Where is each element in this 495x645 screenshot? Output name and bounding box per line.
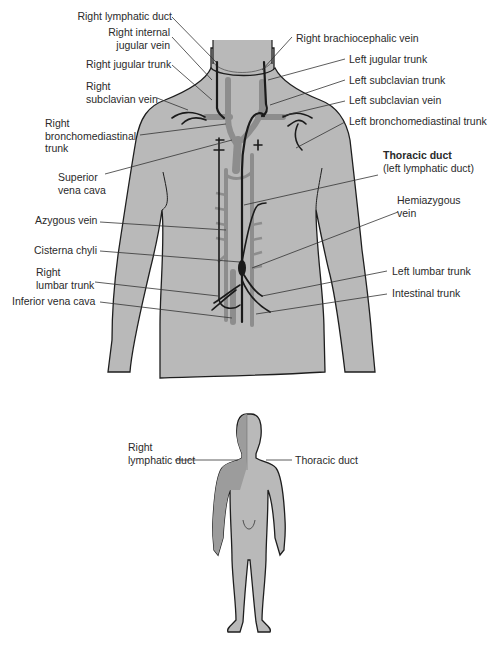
label-line: Right	[128, 441, 195, 454]
label-right-brachiocephalic-vein: Right brachiocephalic vein	[296, 32, 419, 45]
label-left-bronchomediastinal-trunk: Left bronchomediastinal trunk	[349, 115, 487, 128]
label-right-bronchomediastinal-trunk: Right bronchomediastinal trunk	[45, 117, 136, 155]
label-hemiazygous-vein: Hemiazygous vein	[397, 194, 461, 219]
label-superior-vena-cava: Superior vena cava	[58, 171, 106, 196]
label-left-jugular-trunk: Left jugular trunk	[349, 53, 427, 66]
lymphatic-diagram: Right lymphatic duct Right internal jugu…	[0, 0, 495, 645]
label-right-internal-jugular-vein: Right internal jugular vein	[108, 26, 170, 51]
label-right-jugular-trunk: Right jugular trunk	[86, 58, 171, 71]
label-left-lumbar-trunk: Left lumbar trunk	[392, 265, 471, 278]
label-figure-thoracic-duct: Thoracic duct	[295, 454, 358, 467]
label-inferior-vena-cava: Inferior vena cava	[12, 295, 95, 308]
label-line: Right internal	[108, 26, 170, 39]
label-thoracic-duct: Thoracic duct (left lymphatic duct)	[383, 149, 474, 174]
label-line: Thoracic duct	[383, 149, 474, 162]
label-right-lumbar-trunk: Right lumbar trunk	[36, 266, 94, 291]
label-line: subclavian vein	[86, 93, 158, 106]
label-line: vena cava	[58, 184, 106, 197]
label-left-subclavian-vein: Left subclavian vein	[349, 94, 441, 107]
label-line: Right	[36, 266, 94, 279]
label-line: bronchomediastinal	[45, 130, 136, 143]
label-line: lymphatic duct	[128, 454, 195, 467]
label-line: Right	[45, 117, 136, 130]
label-line: vein	[397, 207, 461, 220]
label-line: Hemiazygous	[397, 194, 461, 207]
label-line: trunk	[45, 142, 136, 155]
label-line: jugular vein	[108, 39, 170, 52]
label-intestinal-trunk: Intestinal trunk	[392, 287, 460, 300]
label-azygous-vein: Azygous vein	[35, 214, 97, 227]
label-figure-right-lymphatic-duct: Right lymphatic duct	[128, 441, 195, 466]
label-line: Superior	[58, 171, 106, 184]
label-line: lumbar trunk	[36, 279, 94, 292]
label-right-subclavian-vein: Right subclavian vein	[86, 80, 158, 105]
label-cisterna-chyli: Cisterna chyli	[34, 244, 97, 257]
label-line: (left lymphatic duct)	[383, 162, 474, 175]
label-line: Right	[86, 80, 158, 93]
label-right-lymphatic-duct: Right lymphatic duct	[77, 10, 172, 23]
label-left-subclavian-trunk: Left subclavian trunk	[349, 74, 445, 87]
